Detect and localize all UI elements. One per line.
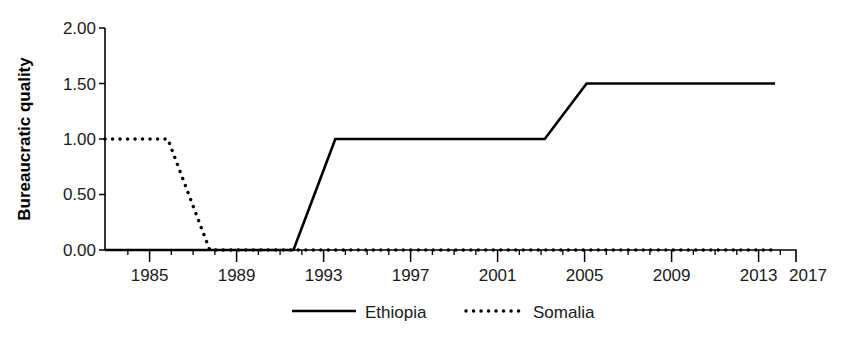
y-axis-tick-labels: 2.00 1.50 1.00 0.50 0.00 xyxy=(63,19,96,260)
legend-label-ethiopia: Ethiopia xyxy=(365,303,427,322)
x-axis-tick-labels: 1985 1989 1993 1997 2001 2005 2009 2013 … xyxy=(131,266,827,285)
y-tick-label-0: 0.00 xyxy=(63,241,96,260)
y-tick-label-1-5: 1.50 xyxy=(63,75,96,94)
x-tick-label-2013: 2013 xyxy=(740,266,778,285)
y-axis-title: Bureaucratic quality xyxy=(15,57,34,221)
x-tick-label-1997: 1997 xyxy=(392,266,430,285)
series-line-somalia xyxy=(105,139,775,250)
x-tick-label-2005: 2005 xyxy=(566,266,604,285)
y-tick-label-2: 2.00 xyxy=(63,19,96,38)
legend-label-somalia: Somalia xyxy=(533,303,595,322)
x-tick-label-2009: 2009 xyxy=(653,266,691,285)
series-line-ethiopia xyxy=(105,84,775,251)
x-tick-label-1985: 1985 xyxy=(131,266,169,285)
bureaucratic-quality-chart: Bureaucratic quality 2.00 1.50 1.00 0.50… xyxy=(0,0,843,340)
chart-legend: Ethiopia Somalia xyxy=(292,303,595,322)
chart-canvas: Bureaucratic quality 2.00 1.50 1.00 0.50… xyxy=(0,0,843,340)
x-tick-label-1993: 1993 xyxy=(305,266,343,285)
x-axis-line xyxy=(105,250,796,262)
x-tick-label-2001: 2001 xyxy=(479,266,517,285)
y-tick-label-1: 1.00 xyxy=(63,130,96,149)
y-tick-label-0-5: 0.50 xyxy=(63,185,96,204)
x-tick-label-2017: 2017 xyxy=(789,266,827,285)
x-tick-label-1989: 1989 xyxy=(218,266,256,285)
